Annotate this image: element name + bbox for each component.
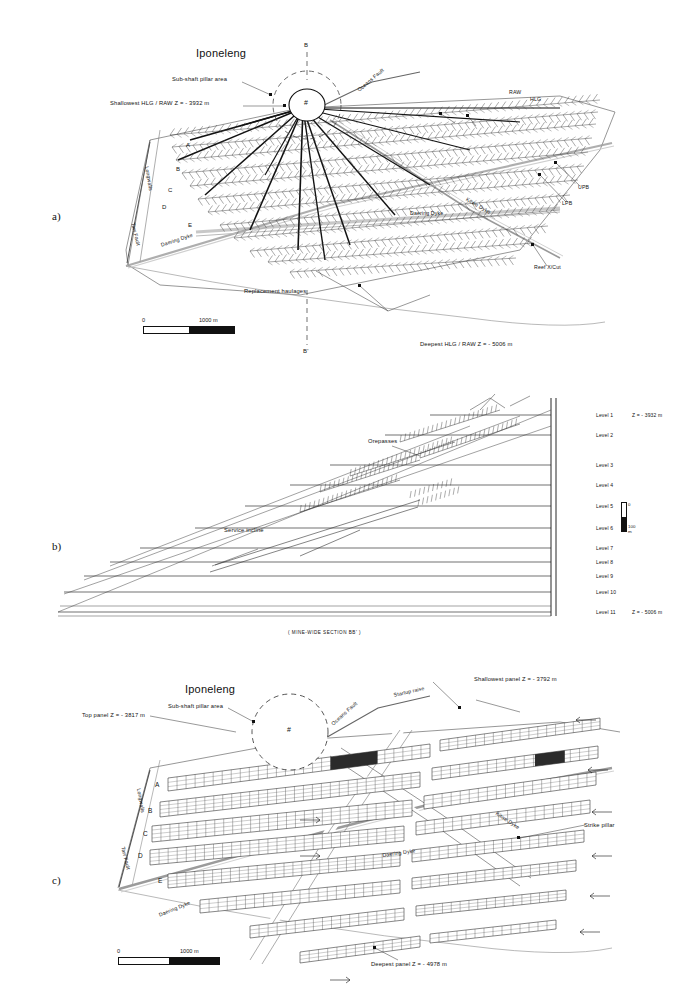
- panel-c-shallowest-panel-label: Shallowest panel Z = - 3792 m: [474, 676, 557, 682]
- panel-a-reef-xcut-label: Reef X/Cut: [534, 264, 561, 270]
- panel-c-longwall-letter-c: C: [143, 830, 148, 837]
- panel-c-longwall-letter-b: B: [148, 807, 153, 814]
- panel-a-shaft-symbol: #: [304, 99, 308, 106]
- panel-b-level-depth-1: Z = - 3932 m: [632, 412, 662, 418]
- panel-b-level-name-5: Level 5: [596, 503, 613, 509]
- panel-a: a): [0, 0, 686, 380]
- panel-b-level-name-1: Level 1: [596, 412, 613, 418]
- panel-c-scale-value: 1000 m: [180, 948, 199, 954]
- figure-canvas: a): [0, 0, 686, 1008]
- panel-a-section-top-label: B: [304, 42, 308, 48]
- panel-a-section-bottom-label: B': [303, 348, 308, 354]
- panel-b-level-name-9: Level 9: [596, 573, 613, 579]
- panel-a-scale-zero: 0: [142, 317, 145, 323]
- panel-b-level-name-2: Level 2: [596, 432, 613, 438]
- panel-b-scale-zero: 0: [628, 502, 630, 507]
- panel-c-longwall-letter-e: E: [158, 877, 163, 884]
- panel-c-scale-zero: 0: [117, 948, 120, 954]
- panel-b-caption: ( MINE-WIDE SECTION BB' ): [288, 630, 361, 635]
- panel-a-longwall-letter-b: B: [176, 166, 180, 172]
- panel-a-longwall-letter-a: A: [186, 142, 190, 148]
- panel-c-strike-pillar-label: Strike pillar: [584, 822, 615, 828]
- panel-b: b): [0, 380, 686, 660]
- panel-b-drawing: [0, 380, 686, 660]
- panel-c-deepest-panel-label: Deepest panel Z = - 4978 m: [371, 961, 447, 967]
- panel-a-scale-value: 1000 m: [199, 317, 218, 323]
- panel-c-subshaft-label: Sub-shaft pillar area: [168, 703, 223, 709]
- panel-a-hlg-label: HLG: [530, 96, 541, 102]
- panel-b-scale-value: 100 m: [628, 524, 635, 534]
- panel-a-shaft-name: Iponeleng: [196, 47, 246, 59]
- panel-b-level-name-7: Level 7: [596, 545, 613, 551]
- panel-a-replacement-haulages-label: Replacement haulages: [244, 288, 306, 294]
- panel-b-level-name-6: Level 6: [596, 525, 613, 531]
- panel-c-shaft-name: Iponeleng: [185, 683, 235, 695]
- panel-a-raw-label: RAW: [509, 89, 521, 95]
- panel-c-longwall-letter-a: A: [155, 781, 160, 788]
- panel-a-longwall-letter-e: E: [188, 222, 192, 228]
- panel-b-orepasses-label: Orepasses: [368, 438, 397, 444]
- panel-a-drawing: [0, 0, 686, 380]
- panel-b-service-incline-label: Service incline: [224, 527, 264, 533]
- panel-a-upb-label: UPB: [578, 184, 589, 190]
- panel-c-shaft-symbol: #: [287, 726, 291, 733]
- panel-a-daering-dyke-label: Daering Dyke: [410, 210, 443, 216]
- panel-b-level-depth-11: Z = - 5006 m: [632, 609, 662, 615]
- panel-a-subshaft-label: Sub-shaft pillar area: [172, 76, 227, 82]
- panel-b-level-name-10: Level 10: [596, 589, 616, 595]
- panel-a-shallowest-label: Shallowest HLG / RAW Z = - 3932 m: [110, 100, 209, 106]
- panel-c-longwall-letter-d: D: [138, 852, 143, 859]
- panel-a-lpb-label: LPB: [562, 200, 572, 206]
- panel-c-top-panel-label: Top panel Z = - 3817 m: [82, 712, 145, 718]
- panel-a-longwall-letter-d: D: [162, 204, 166, 210]
- panel-b-level-name-8: Level 8: [596, 559, 613, 565]
- panel-b-level-name-11: Level 11: [596, 609, 616, 615]
- panel-c: c): [0, 660, 686, 1008]
- panel-a-deepest-label: Deepest HLG / RAW Z = - 5006 m: [420, 341, 512, 347]
- panel-a-longwall-letter-c: C: [168, 187, 172, 193]
- panel-b-level-name-4: Level 4: [596, 482, 613, 488]
- panel-b-level-name-3: Level 3: [596, 462, 613, 468]
